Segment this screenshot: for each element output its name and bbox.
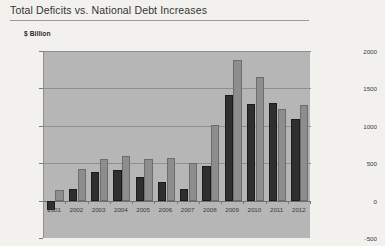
y-tick-label-0: 0 — [374, 197, 377, 204]
bar-deficit-2010 — [247, 104, 255, 201]
x-tick-mark-2010 — [266, 201, 267, 204]
y-tick-mark--500 — [39, 238, 43, 239]
bar-deficit-2012 — [291, 119, 299, 200]
bar-debt-2006 — [167, 158, 175, 201]
x-tick-mark-2001 — [65, 201, 66, 204]
bar-deficit-2004 — [113, 170, 121, 201]
title-divider — [10, 20, 309, 21]
x-tick-label-2007: 2007 — [176, 206, 200, 213]
x-tick-label-2012: 2012 — [287, 206, 311, 213]
y-tick-label--500: -500 — [365, 235, 377, 242]
x-tick-label-2001: 2001 — [42, 206, 66, 213]
x-tick-mark-2004 — [132, 201, 133, 204]
gridline-0 — [44, 201, 311, 202]
x-tick-label-2003: 2003 — [87, 206, 111, 213]
x-tick-mark-2005 — [154, 201, 155, 204]
y-axis — [0, 51, 43, 238]
x-tick-mark-2006 — [177, 201, 178, 204]
bar-debt-2003 — [100, 159, 108, 200]
y-tick-mark-2000 — [39, 51, 43, 52]
bar-deficit-2006 — [158, 182, 166, 201]
bar-deficit-2008 — [202, 166, 210, 200]
bar-deficit-2003 — [91, 172, 99, 200]
bar-debt-2009 — [233, 60, 241, 201]
x-tick-mark-2012 — [310, 201, 311, 204]
chart-page: Total Deficits vs. National Debt Increas… — [0, 0, 385, 246]
bar-debt-2004 — [122, 156, 130, 201]
bar-debt-2008 — [211, 125, 219, 201]
bar-debt-2002 — [78, 169, 86, 200]
x-tick-mark-2011 — [288, 201, 289, 204]
x-tick-label-2004: 2004 — [109, 206, 133, 213]
bar-debt-2007 — [189, 163, 197, 200]
x-tick-mark-2007 — [199, 201, 200, 204]
x-tick-label-2005: 2005 — [131, 206, 155, 213]
x-tick-mark-2009 — [243, 201, 244, 204]
bar-debt-2001 — [55, 190, 63, 200]
x-tick-mark-2008 — [221, 201, 222, 204]
x-tick-label-2010: 2010 — [242, 206, 266, 213]
page-title: Total Deficits vs. National Debt Increas… — [10, 4, 207, 16]
y-tick-mark-500 — [39, 163, 43, 164]
x-tick-label-2006: 2006 — [153, 206, 177, 213]
y-tick-label-1500: 1500 — [363, 85, 377, 92]
gridline-2000 — [44, 51, 311, 52]
y-axis-unit-label: $ Billion — [24, 30, 51, 37]
y-tick-mark-1000 — [39, 126, 43, 127]
bar-deficit-2009 — [225, 95, 233, 201]
bar-deficit-2005 — [136, 177, 144, 201]
y-tick-label-500: 500 — [367, 160, 377, 167]
y-tick-label-1000: 1000 — [363, 122, 377, 129]
bar-debt-2005 — [144, 159, 152, 200]
bar-deficit-2007 — [180, 189, 188, 201]
y-tick-label-2000: 2000 — [363, 48, 377, 55]
x-tick-mark-2003 — [110, 201, 111, 204]
bar-debt-2012 — [300, 105, 308, 200]
x-tick-mark-2002 — [88, 201, 89, 204]
bar-debt-2010 — [256, 77, 264, 201]
y-tick-mark-1500 — [39, 88, 43, 89]
x-tick-label-2011: 2011 — [265, 206, 289, 213]
x-tick-label-2008: 2008 — [198, 206, 222, 213]
bar-debt-2011 — [278, 109, 286, 201]
y-tick-mark-0 — [39, 201, 43, 202]
bar-deficit-2002 — [69, 189, 77, 201]
gridline-1500 — [44, 88, 311, 89]
x-tick-label-2002: 2002 — [64, 206, 88, 213]
x-tick-label-2009: 2009 — [220, 206, 244, 213]
bar-deficit-2011 — [269, 103, 277, 200]
